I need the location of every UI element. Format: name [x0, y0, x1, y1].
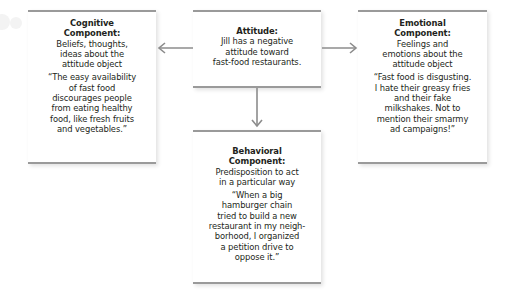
quote-line: “The easy availability: [32, 72, 152, 82]
behavioral-component-box: Behavioral Component: Predisposition to …: [193, 130, 321, 284]
description-line: in a particular way: [197, 177, 317, 187]
description-line: attitude toward: [197, 47, 317, 57]
behavioral-title: Behavioral Component:: [197, 146, 317, 167]
quote-line: “Fast food is disgusting.: [362, 72, 483, 82]
title-line: Component:: [32, 28, 152, 38]
quote-line: restaurant in my neigh-: [197, 221, 317, 231]
description-line: ideas about the: [32, 49, 152, 59]
description-line: Predisposition to act: [197, 167, 317, 177]
quote-line: mention their smarmy: [362, 114, 483, 124]
emotional-component-box: Emotional Component: Feelings and emotio…: [358, 10, 487, 164]
emotional-quote: “Fast food is disgusting. I hate their g…: [362, 72, 483, 134]
cognitive-quote: “The easy availability of fast food disc…: [32, 72, 152, 134]
quote-line: borhood, I organized: [197, 231, 317, 241]
title-line: Component:: [197, 156, 317, 166]
title-line: Component:: [362, 28, 483, 38]
description-line: fast-food restaurants.: [197, 57, 317, 67]
quote-line: discourages people: [32, 93, 152, 103]
quote-line: milkshakes. Not to: [362, 103, 483, 113]
description-line: attitude object: [362, 59, 483, 69]
arrow-down-icon: [251, 88, 263, 130]
quote-line: food, like fresh fruits: [32, 114, 152, 124]
behavioral-description: Predisposition to act in a particular wa…: [197, 167, 317, 188]
behavioral-quote: “When a big hamburger chain tried to bui…: [197, 190, 317, 262]
attitude-box: Attitude: Jill has a negative attitude t…: [193, 10, 321, 88]
decorative-circle: [0, 14, 10, 30]
cognitive-title: Cognitive Component:: [32, 18, 152, 39]
title-line: Behavioral: [197, 146, 317, 156]
emotional-title: Emotional Component:: [362, 18, 483, 39]
description-line: Jill has a negative: [197, 36, 317, 46]
cognitive-component-box: Cognitive Component: Beliefs, thoughts, …: [28, 10, 156, 164]
quote-line: from eating healthy: [32, 103, 152, 113]
arrow-right-icon: [320, 42, 360, 54]
quote-line: ad campaigns!”: [362, 124, 483, 134]
cognitive-description: Beliefs, thoughts, ideas about the attit…: [32, 39, 152, 70]
description-line: attitude object: [32, 59, 152, 69]
title-line: Cognitive: [32, 18, 152, 28]
quote-line: I hate their greasy fries: [362, 83, 483, 93]
quote-line: and their fake: [362, 93, 483, 103]
quote-line: a petition drive to: [197, 242, 317, 252]
quote-line: hamburger chain: [197, 200, 317, 210]
quote-line: “When a big: [197, 190, 317, 200]
quote-line: and vegetables.”: [32, 124, 152, 134]
quote-line: of fast food: [32, 83, 152, 93]
attitude-description: Jill has a negative attitude toward fast…: [197, 36, 317, 67]
description-line: Feelings and: [362, 39, 483, 49]
attitude-title: Attitude:: [197, 26, 317, 36]
title-line: Emotional: [362, 18, 483, 28]
description-line: emotions about the: [362, 49, 483, 59]
description-line: Beliefs, thoughts,: [32, 39, 152, 49]
quote-line: oppose it.”: [197, 252, 317, 262]
quote-line: tried to build a new: [197, 211, 317, 221]
decorative-circle: [10, 17, 22, 29]
arrow-left-icon: [155, 42, 195, 54]
emotional-description: Feelings and emotions about the attitude…: [362, 39, 483, 70]
